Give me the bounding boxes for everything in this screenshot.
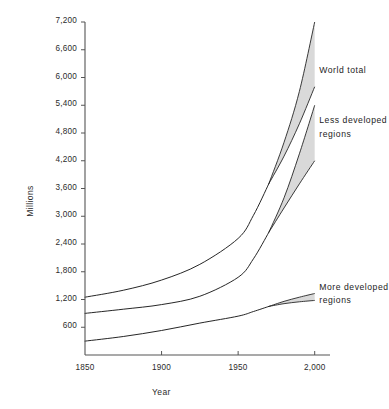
y-axis-title: Millions — [25, 166, 35, 236]
series-label-line2: regions — [319, 128, 387, 142]
series-label-line1: More developed — [319, 281, 388, 295]
x-axis-ticks — [162, 351, 315, 355]
y-tick-label: 1,200 — [31, 294, 77, 303]
x-tick-label: 1900 — [140, 363, 184, 372]
y-tick-label: 6,000 — [31, 72, 77, 81]
y-tick-label: 3,000 — [31, 210, 77, 219]
y-tick-label: 600 — [31, 321, 77, 330]
series-lines — [85, 22, 315, 341]
y-tick-label: 4,800 — [31, 127, 77, 136]
projection-bands — [269, 22, 315, 306]
series-label-line1: World total — [319, 64, 366, 78]
series-label-0: World total — [319, 64, 366, 78]
y-tick-label: 3,600 — [31, 183, 77, 192]
x-tick-label: 1950 — [216, 363, 260, 372]
y-tick-label: 2,400 — [31, 238, 77, 247]
x-tick-label: 1850 — [63, 363, 107, 372]
y-tick-label: 5,400 — [31, 99, 77, 108]
y-tick-label: 6,600 — [31, 44, 77, 53]
y-tick-label: 4,200 — [31, 155, 77, 164]
y-axis-ticks — [81, 22, 85, 327]
y-tick-label: 7,200 — [31, 16, 77, 25]
series-line-1 — [85, 232, 269, 313]
y-tick-label: 1,800 — [31, 266, 77, 275]
x-axis-title: Year — [152, 387, 171, 397]
series-label-1: Less developedregions — [319, 114, 387, 141]
series-label-2: More developedregions — [319, 281, 388, 308]
series-label-line2: regions — [319, 294, 388, 308]
series-line-2 — [85, 306, 269, 341]
series-line-0 — [85, 184, 269, 297]
x-tick-label: 2,000 — [293, 363, 337, 372]
series-label-line1: Less developed — [319, 114, 387, 128]
